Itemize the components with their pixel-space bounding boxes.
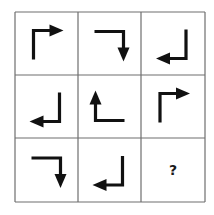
grid-cells: ? — [30, 25, 191, 192]
question-mark: ? — [169, 162, 177, 178]
arrow-shaft — [96, 103, 125, 121]
arrow-head — [50, 25, 64, 37]
arrow-head — [55, 174, 67, 188]
arrow-head — [93, 179, 107, 191]
puzzle-grid: ? — [0, 0, 214, 215]
arrow-shaft — [42, 93, 60, 122]
cell-1-2 — [160, 88, 190, 123]
arrow-up-icon — [90, 91, 125, 121]
arrow-right-icon — [34, 25, 64, 60]
cell-1-0 — [30, 93, 60, 128]
arrow-shaft — [34, 31, 52, 60]
cell-2-2: ? — [169, 162, 177, 178]
arrow-head — [90, 91, 102, 105]
arrow-right-icon — [160, 88, 190, 123]
cell-1-1 — [90, 91, 125, 121]
cell-0-0 — [34, 25, 64, 60]
arrow-head — [156, 53, 170, 65]
arrow-down-icon — [95, 32, 130, 62]
arrow-left-icon — [93, 156, 123, 191]
arrow-shaft — [32, 158, 61, 176]
arrow-down-icon — [32, 158, 67, 188]
cell-2-1 — [93, 156, 123, 191]
arrow-shaft — [95, 32, 124, 50]
arrow-shaft — [105, 156, 123, 185]
arrow-left-icon — [156, 30, 186, 65]
cell-0-2 — [156, 30, 186, 65]
arrow-left-icon — [30, 93, 60, 128]
arrow-head — [176, 88, 190, 100]
cell-2-0 — [32, 158, 67, 188]
cell-0-1 — [95, 32, 130, 62]
arrow-shaft — [160, 94, 178, 123]
arrow-head — [118, 48, 130, 62]
arrow-head — [30, 116, 44, 128]
arrow-shaft — [168, 30, 186, 59]
